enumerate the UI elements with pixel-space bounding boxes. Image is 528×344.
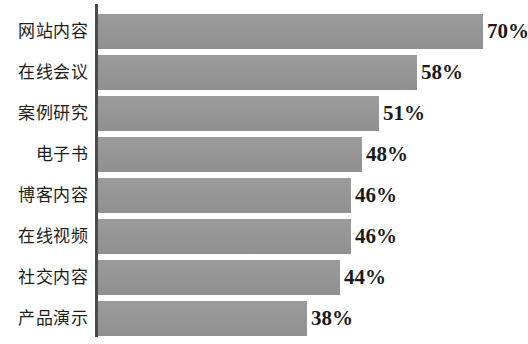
category-label: 产品演示 bbox=[0, 301, 88, 336]
bar-value-label: 46% bbox=[355, 178, 397, 213]
bar-segment bbox=[98, 178, 351, 213]
category-label: 案例研究 bbox=[0, 96, 88, 131]
bar-row: 网站内容 70% bbox=[0, 14, 528, 49]
bar-segment bbox=[98, 260, 340, 295]
bar-value-label: 70% bbox=[487, 14, 528, 49]
bar-row: 案例研究 51% bbox=[0, 96, 528, 131]
bar-value-label: 48% bbox=[366, 137, 408, 172]
category-label: 博客内容 bbox=[0, 178, 88, 213]
bar-value-label: 46% bbox=[355, 219, 397, 254]
bar-value-label: 44% bbox=[344, 260, 386, 295]
bar-segment bbox=[98, 55, 417, 90]
bar-value-label: 38% bbox=[311, 301, 353, 336]
category-label: 社交内容 bbox=[0, 260, 88, 295]
bar-segment bbox=[98, 301, 307, 336]
category-label: 在线会议 bbox=[0, 55, 88, 90]
bar-row: 在线会议 58% bbox=[0, 55, 528, 90]
bar-row: 在线视频 46% bbox=[0, 219, 528, 254]
bar-value-label: 51% bbox=[383, 96, 425, 131]
bar-row: 电子书 48% bbox=[0, 137, 528, 172]
category-label: 在线视频 bbox=[0, 219, 88, 254]
bar-segment bbox=[98, 137, 362, 172]
bar-segment bbox=[98, 96, 379, 131]
bar-chart: 网站内容 70% 在线会议 58% 案例研究 51% 电子书 48% 博客内容 … bbox=[0, 0, 528, 344]
bar-segment bbox=[98, 14, 483, 49]
bar-value-label: 58% bbox=[421, 55, 463, 90]
bar-row: 社交内容 44% bbox=[0, 260, 528, 295]
bar-segment bbox=[98, 219, 351, 254]
bar-row: 博客内容 46% bbox=[0, 178, 528, 213]
category-label: 电子书 bbox=[0, 137, 88, 172]
bar-row: 产品演示 38% bbox=[0, 301, 528, 336]
category-label: 网站内容 bbox=[0, 14, 88, 49]
